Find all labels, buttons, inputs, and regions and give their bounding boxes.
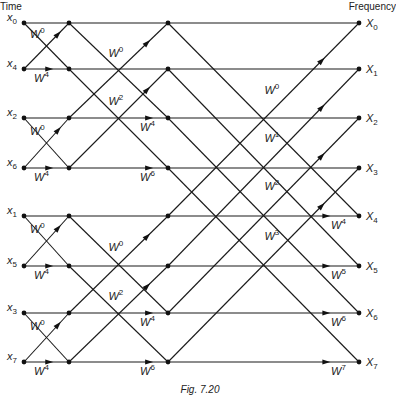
- output-label-X2: X2: [365, 112, 378, 127]
- labels: W0W4W0W4W0W4W0W4W0W2W4W6W0W2W4W6W0W1W2W3…: [6, 11, 378, 377]
- input-node: [22, 116, 27, 121]
- arrowhead-icon: [322, 310, 330, 315]
- intermediate-node: [67, 214, 72, 219]
- output-label-X4: X4: [365, 210, 378, 225]
- output-node: [357, 166, 362, 171]
- intermediate-node: [166, 21, 171, 26]
- butterfly-edges: [24, 23, 359, 362]
- twiddle-label-w6: W6: [140, 363, 155, 377]
- output-label-X3: X3: [365, 162, 378, 177]
- intermediate-node: [166, 214, 171, 219]
- intermediate-node: [166, 166, 171, 171]
- twiddle-label-w4: W4: [34, 363, 49, 377]
- twiddle-label-w4: W4: [331, 217, 346, 231]
- output-label-X7: X7: [365, 356, 378, 371]
- arrowhead-icon: [322, 359, 330, 364]
- intermediate-node: [67, 116, 72, 121]
- arrowhead-icon: [322, 213, 330, 218]
- arrowhead-icon: [322, 263, 330, 268]
- twiddle-label-w0: W0: [108, 45, 123, 59]
- input-node: [22, 214, 27, 219]
- fft-butterfly-diagram: Time Frequency W0W4W0W4W0W4W0W4W0W2W4W6W…: [0, 0, 396, 395]
- output-node: [357, 116, 362, 121]
- output-label-X6: X6: [365, 307, 378, 322]
- input-node: [22, 311, 27, 316]
- input-node: [22, 264, 27, 269]
- intermediate-node: [166, 360, 171, 365]
- output-node: [357, 360, 362, 365]
- twiddle-label-w0: W0: [30, 123, 45, 137]
- twiddle-label-w0: W0: [108, 239, 123, 253]
- input-node: [22, 67, 27, 72]
- twiddle-label-w7: W7: [331, 363, 346, 377]
- intermediate-node: [67, 264, 72, 269]
- twiddle-label-w5: W5: [331, 267, 346, 281]
- arrowheads: [45, 29, 330, 364]
- intermediate-node: [166, 67, 171, 72]
- input-label-x7: x7: [6, 350, 18, 365]
- twiddle-label-w0: W0: [30, 318, 45, 332]
- output-label-X0: X0: [365, 17, 378, 32]
- intermediate-node: [67, 360, 72, 365]
- twiddle-label-w6: W6: [140, 169, 155, 183]
- intermediate-node: [166, 264, 171, 269]
- twiddle-label-w3: W3: [264, 228, 279, 242]
- output-node: [357, 67, 362, 72]
- twiddle-label-w4: W4: [34, 70, 49, 84]
- output-label-X5: X5: [365, 260, 378, 275]
- figure-caption: Fig. 7.20: [181, 384, 220, 395]
- input-label-x5: x5: [6, 254, 18, 269]
- twiddle-label-w2: W2: [108, 93, 123, 107]
- twiddle-label-w0: W0: [264, 82, 279, 96]
- input-label-x3: x3: [6, 301, 18, 316]
- input-node: [22, 360, 27, 365]
- output-label-X1: X1: [365, 63, 378, 78]
- twiddle-label-w4: W4: [34, 267, 49, 281]
- input-node: [22, 166, 27, 171]
- input-label-x2: x2: [6, 106, 18, 121]
- header-frequency: Frequency: [349, 1, 396, 12]
- twiddle-label-w2: W2: [108, 288, 123, 302]
- twiddle-label-w6: W6: [331, 314, 346, 328]
- twiddle-label-w0: W0: [30, 221, 45, 235]
- input-label-x1: x1: [6, 204, 18, 219]
- twiddle-label-w4: W4: [140, 119, 155, 133]
- intermediate-node: [67, 166, 72, 171]
- output-node: [357, 311, 362, 316]
- twiddle-label-w0: W0: [30, 26, 45, 40]
- output-node: [357, 264, 362, 269]
- intermediate-node: [166, 116, 171, 121]
- twiddle-label-w4: W4: [140, 314, 155, 328]
- input-label-x0: x0: [6, 11, 18, 26]
- intermediate-node: [67, 21, 72, 26]
- input-label-x6: x6: [6, 156, 18, 171]
- output-node: [357, 214, 362, 219]
- output-node: [357, 21, 362, 26]
- twiddle-label-w4: W4: [34, 169, 49, 183]
- input-label-x4: x4: [6, 57, 18, 72]
- input-node: [22, 21, 27, 26]
- intermediate-node: [67, 67, 72, 72]
- intermediate-node: [166, 311, 171, 316]
- intermediate-node: [67, 311, 72, 316]
- twiddle-label-w1: W1: [264, 130, 279, 144]
- twiddle-label-w2: W2: [264, 178, 279, 192]
